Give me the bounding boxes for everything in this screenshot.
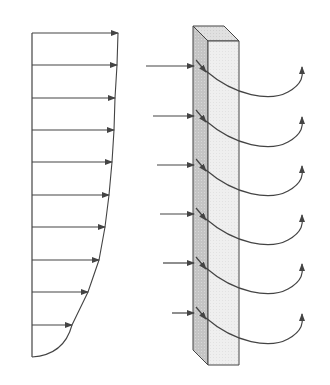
diagram-canvas: [0, 0, 330, 385]
diagram-svg: [0, 0, 330, 385]
plate-side-face: [193, 26, 208, 365]
velocity-profile: [32, 33, 118, 357]
porous-plate: [193, 26, 239, 365]
